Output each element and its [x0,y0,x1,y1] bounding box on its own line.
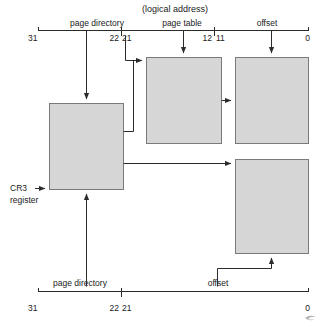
four-mb-page-box [236,160,309,254]
page-table-box [147,58,222,144]
top-address-bar [39,27,309,36]
diagram-vector-layer [0,0,324,327]
four-kb-page-box [236,58,309,144]
paging-diagram: (logical address) page directory page ta… [0,0,324,327]
connector-bottom-offset-field-to-4mb-page [218,258,272,287]
page-directory-box [50,104,124,190]
connector-bit21-to-pagetable-box [126,36,143,61]
bottom-address-bar [39,288,309,297]
scan-artifact-mark [305,316,316,321]
connector-pagedir-box-to-pagetable-box [124,61,134,132]
